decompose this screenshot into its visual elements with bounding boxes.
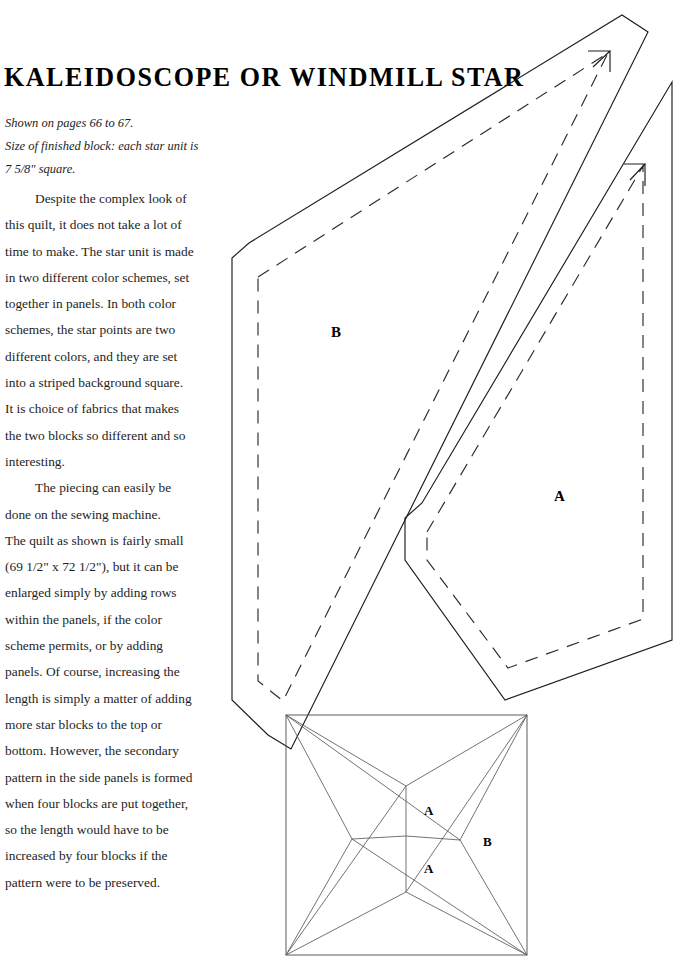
body-line: pattern in the side panels is formed	[5, 765, 213, 791]
body-line: together in panels. In both color	[5, 291, 213, 317]
piece-a-grain-arrow-icon	[624, 164, 645, 186]
body-line: The piecing can easily be	[5, 475, 213, 501]
body-line: Despite the complex look of	[5, 186, 213, 212]
paragraph-2: The piecing can easily be done on the se…	[5, 475, 213, 896]
paragraph-1: Despite the complex look of this quilt, …	[5, 186, 213, 475]
piece-b-label: B	[331, 325, 341, 340]
body-line: It is choice of fabrics that makes	[5, 396, 213, 422]
block-label-a-top: A	[424, 804, 433, 817]
body-line: more star blocks to the top or	[5, 712, 213, 738]
body-line: different colors, and they are set	[5, 344, 213, 370]
body-line: the two blocks so different and so	[5, 423, 213, 449]
block-label-a-bottom: A	[424, 862, 433, 875]
body-line: pattern were to be preserved.	[5, 870, 213, 896]
subhead-block: Shown on pages 66 to 67. Size of finishe…	[5, 112, 220, 181]
piece-b-grain-arrow-icon	[588, 51, 610, 72]
piece-a-seam-line	[427, 166, 643, 668]
body-line: so the length would have to be	[5, 817, 213, 843]
body-line: panels. Of course, increasing the	[5, 659, 213, 685]
document-page: KALEIDOSCOPE OR WINDMILL STAR Shown on p…	[0, 0, 695, 974]
body-text: Despite the complex look of this quilt, …	[5, 186, 213, 896]
body-line: enlarged simply by adding rows	[5, 580, 213, 606]
body-line: this quilt, it does not take a lot of	[5, 212, 213, 238]
page-title: KALEIDOSCOPE OR WINDMILL STAR	[4, 62, 404, 92]
body-line: into a striped background square.	[5, 370, 213, 396]
body-line: scheme permits, or by adding	[5, 633, 213, 659]
body-line: schemes, the star points are two	[5, 317, 213, 343]
block-label-b-right: B	[483, 835, 492, 848]
template-piece-a	[405, 82, 672, 700]
subhead-line: Shown on pages 66 to 67.	[5, 112, 220, 135]
body-line: time to make. The star unit is made	[5, 239, 213, 265]
piece-b-cutting-line	[232, 15, 648, 749]
body-line: in two different color schemes, set	[5, 265, 213, 291]
body-line: bottom. However, the secondary	[5, 738, 213, 764]
body-line: when four blocks are put together,	[5, 791, 213, 817]
template-piece-b	[232, 15, 648, 749]
body-line: interesting.	[5, 449, 213, 475]
body-line: increased by four blocks if the	[5, 843, 213, 869]
subhead-line: Size of finished block: each star unit i…	[5, 135, 220, 158]
piece-b-seam-line	[258, 53, 608, 701]
body-line: (69 1/2" x 72 1/2"), but it can be	[5, 554, 213, 580]
piece-a-cutting-line	[405, 82, 672, 700]
body-line: within the panels, if the color	[5, 607, 213, 633]
piece-a-label: A	[554, 489, 565, 504]
body-line: length is simply a matter of adding	[5, 686, 213, 712]
body-line: done on the sewing machine.	[5, 502, 213, 528]
subhead-line: 7 5/8" square.	[5, 158, 220, 181]
body-line: The quilt as shown is fairly small	[5, 528, 213, 554]
